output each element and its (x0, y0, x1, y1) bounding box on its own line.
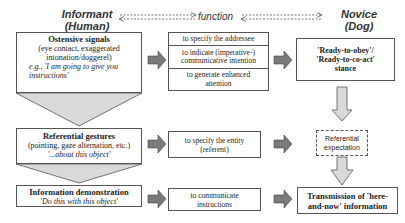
informant-sublabel: (Human) (52, 20, 122, 32)
demonstration-example: 'Do this with this object' (17, 197, 141, 206)
transmission-text-2: and-now' information (298, 201, 397, 211)
function-row-addressee: to specify the addressee (169, 33, 268, 46)
stance-text-2: 'Ready-to-co-act' (297, 55, 394, 64)
ostensive-example-1: e.g., 'I am going to give you (17, 62, 141, 71)
novice-header: Novice (Dog) (324, 8, 394, 32)
block-arrow-6 (274, 190, 292, 208)
novice-sublabel: (Dog) (324, 20, 394, 32)
transmission-box: Transmission of 'here- and-now' informat… (297, 187, 398, 214)
funnel-2 (16, 164, 142, 183)
referential-desc: (pointing, gaze alternation, etc.) (17, 141, 141, 150)
block-arrow-2 (148, 135, 166, 153)
information-demonstration-box: Information demonstration 'Do this with … (16, 185, 142, 207)
communicate-instructions-box: to communicate instructions (168, 188, 261, 211)
block-arrow-1 (148, 51, 166, 69)
stance-text-1: 'Ready-to-obey'/ (297, 46, 394, 55)
block-arrow-3 (148, 190, 166, 208)
referential-gestures-box: Referential gestures (pointing, gaze alt… (16, 128, 142, 164)
expectation-text-1: Referential (317, 134, 367, 143)
specify-entity-box: to specify the entity (referent) (168, 131, 261, 158)
referential-title: Referential gestures (17, 132, 141, 141)
informant-label: Informant (52, 8, 122, 20)
dashed-arrow-function-novice (242, 15, 321, 19)
ready-stance-box: 'Ready-to-obey'/ 'Ready-to-co-act' stanc… (296, 38, 395, 81)
block-arrow-4 (274, 51, 292, 69)
functions-table: to specify the addressee to indicate (im… (168, 32, 269, 91)
referential-example: '...about this object' (17, 150, 141, 159)
dashed-arrow-informant-function (120, 15, 195, 19)
ostensive-desc-2: intonation/doggerel) (17, 53, 141, 62)
ostensive-signals-box: Ostensive signals (eye contact, exaggera… (16, 32, 142, 93)
function-header: function (198, 11, 233, 22)
ostensive-example-2: instructions' (17, 71, 141, 80)
transmission-text-1: Transmission of 'here- (298, 191, 397, 201)
down-arrow-1 (332, 87, 352, 121)
function-row-intention: to indicate (imperative-) communicative … (169, 46, 268, 69)
stance-text-3: stance (297, 64, 394, 73)
instructions-text-2: instructions (169, 200, 260, 209)
referential-expectation-box: Referential expectation (316, 130, 368, 156)
funnel-1 (16, 93, 142, 126)
demonstration-title: Information demonstration (17, 188, 141, 197)
function-text: attention (205, 80, 231, 89)
function-row-attention: to generate enhanced attention (169, 69, 268, 90)
instructions-text-1: to communicate (169, 191, 260, 200)
ostensive-desc-1: (eye contact, exaggerated (17, 44, 141, 53)
novice-label: Novice (324, 8, 394, 20)
informant-header: Informant (Human) (52, 8, 122, 32)
entity-text-2: (referent) (169, 145, 260, 154)
entity-text-1: to specify the entity (169, 136, 260, 145)
ostensive-title: Ostensive signals (17, 35, 141, 44)
down-arrow-2 (331, 157, 353, 185)
block-arrow-5 (274, 135, 292, 153)
function-text: to specify the addressee (183, 35, 254, 44)
expectation-text-2: expectation (317, 143, 367, 152)
function-text: communicative intention (181, 57, 256, 66)
